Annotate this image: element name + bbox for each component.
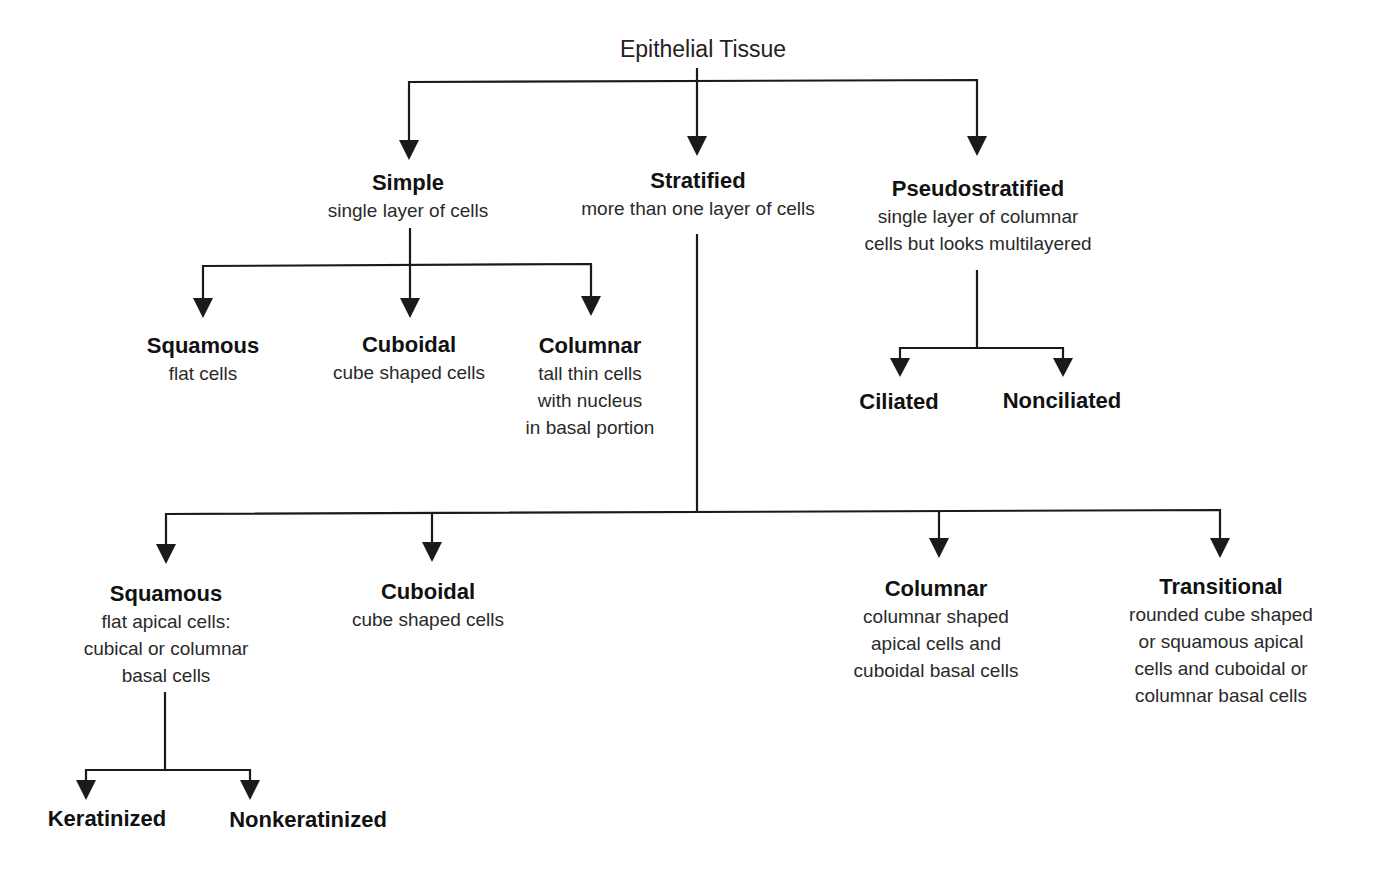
node-stratified-transitional: Transitional rounded cube shaped or squa… [1129,573,1313,709]
node-desc: cube shaped cells [352,606,504,633]
node-desc: with nucleus [526,387,655,414]
node-desc: flat cells [147,360,259,387]
node-desc: columnar shaped [854,603,1019,630]
node-desc: columnar basal cells [1129,682,1313,709]
node-desc: cuboidal basal cells [854,657,1019,684]
node-simple-squamous: Squamous flat cells [147,332,259,387]
node-keratinized: Keratinized [48,805,167,833]
node-stratified-cuboidal: Cuboidal cube shaped cells [352,578,504,633]
node-desc: cube shaped cells [333,359,485,386]
node-simple: Simple single layer of cells [328,169,489,224]
root-node-epithelial-tissue: Epithelial Tissue [620,35,786,63]
node-desc: cells but looks multilayered [864,230,1091,257]
node-title: Transitional [1129,573,1313,601]
node-title: Simple [328,169,489,197]
node-desc: cubical or columnar [84,635,249,662]
node-stratified: Stratified more than one layer of cells [581,167,814,222]
node-simple-columnar: Columnar tall thin cells with nucleus in… [526,332,655,441]
node-desc: single layer of columnar [864,203,1091,230]
node-title: Stratified [581,167,814,195]
node-desc: single layer of cells [328,197,489,224]
node-desc: apical cells and [854,630,1019,657]
node-desc: in basal portion [526,414,655,441]
node-desc: basal cells [84,662,249,689]
node-pseudostratified: Pseudostratified single layer of columna… [864,175,1091,257]
node-desc: more than one layer of cells [581,195,814,222]
node-nonciliated: Nonciliated [1003,387,1122,415]
node-stratified-columnar: Columnar columnar shaped apical cells an… [854,575,1019,684]
node-title: Columnar [526,332,655,360]
node-title: Squamous [147,332,259,360]
node-desc: or squamous apical [1129,628,1313,655]
node-title: Cuboidal [333,331,485,359]
node-title: Pseudostratified [864,175,1091,203]
node-desc: rounded cube shaped [1129,601,1313,628]
node-nonkeratinized: Nonkeratinized [229,806,387,834]
node-ciliated: Ciliated [859,388,938,416]
node-desc: flat apical cells: [84,608,249,635]
node-stratified-squamous: Squamous flat apical cells: cubical or c… [84,580,249,689]
node-simple-cuboidal: Cuboidal cube shaped cells [333,331,485,386]
node-desc: tall thin cells [526,360,655,387]
connector-lines [0,0,1385,872]
node-title: Columnar [854,575,1019,603]
node-title: Cuboidal [352,578,504,606]
node-title: Squamous [84,580,249,608]
node-desc: cells and cuboidal or [1129,655,1313,682]
